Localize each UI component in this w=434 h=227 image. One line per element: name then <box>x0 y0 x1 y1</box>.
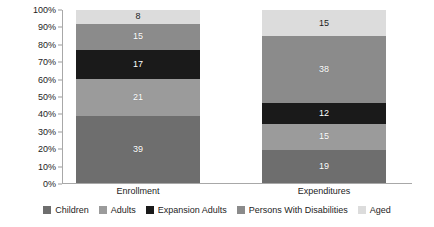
legend: ChildrenAdultsExpansion AdultsPersons Wi… <box>0 202 434 218</box>
legend-swatch-icon <box>358 206 366 214</box>
x-axis-line <box>62 183 412 184</box>
bar-enrollment: 392117158 <box>76 10 200 183</box>
bar-segment-value: 21 <box>133 93 143 102</box>
bar-segment-value: 8 <box>135 12 140 21</box>
bar-segment-persons-with-disabilities: 38 <box>262 36 386 102</box>
y-axis-tick-label: 40% <box>38 109 56 119</box>
y-axis-tick-label: 0% <box>43 179 56 189</box>
bar-segment-expansion-adults: 12 <box>262 103 386 124</box>
bar-segment-value: 19 <box>319 162 329 171</box>
y-axis-tick-label: 50% <box>38 92 56 102</box>
legend-swatch-icon <box>99 206 107 214</box>
bar-segment-expansion-adults: 17 <box>76 50 200 79</box>
category-label-enrollment: Enrollment <box>76 186 200 196</box>
y-axis-tick-label: 60% <box>38 75 56 85</box>
bar-segment-value: 15 <box>319 132 329 141</box>
y-axis: 0%10%20%30%40%50%60%70%80%90%100% <box>14 10 62 184</box>
y-axis-tick-label: 70% <box>38 57 56 67</box>
bar-segment-value: 39 <box>133 145 143 154</box>
bar-segment-children: 19 <box>262 150 386 183</box>
y-axis-tick-label: 100% <box>33 5 56 15</box>
legend-label: Aged <box>370 206 391 215</box>
bar-segment-value: 15 <box>133 32 143 41</box>
bar-segment-aged: 15 <box>262 10 386 36</box>
bar-segment-value: 38 <box>319 65 329 74</box>
legend-item-aged[interactable]: Aged <box>358 206 391 215</box>
legend-swatch-icon <box>146 206 154 214</box>
bar-segment-adults: 15 <box>262 124 386 150</box>
y-axis-tick-label: 80% <box>38 40 56 50</box>
legend-swatch-icon <box>43 206 51 214</box>
bar-segment-adults: 21 <box>76 79 200 115</box>
y-axis-tick-label: 90% <box>38 22 56 32</box>
legend-swatch-icon <box>237 206 245 214</box>
legend-label: Children <box>55 206 89 215</box>
bar-segment-persons-with-disabilities: 15 <box>76 24 200 50</box>
legend-item-persons-with-disabilities[interactable]: Persons With Disabilities <box>237 206 348 215</box>
legend-item-children[interactable]: Children <box>43 206 89 215</box>
legend-label: Expansion Adults <box>158 206 227 215</box>
bar-segment-value: 17 <box>133 60 143 69</box>
y-axis-tick-label: 30% <box>38 127 56 137</box>
category-label-expenditures: Expenditures <box>262 186 386 196</box>
bar-segment-value: 15 <box>319 19 329 28</box>
legend-label: Persons With Disabilities <box>249 206 348 215</box>
legend-label: Adults <box>111 206 136 215</box>
stacked-bar-chart: 0%10%20%30%40%50%60%70%80%90%100% 392117… <box>0 0 434 227</box>
y-axis-tick-label: 10% <box>38 162 56 172</box>
bar-segment-aged: 8 <box>76 10 200 24</box>
bar-segment-value: 12 <box>319 109 329 118</box>
y-axis-tick-label: 20% <box>38 144 56 154</box>
legend-item-expansion-adults[interactable]: Expansion Adults <box>146 206 227 215</box>
bar-segment-children: 39 <box>76 116 200 183</box>
bar-expenditures: 1915123815 <box>262 10 386 183</box>
plot-area: 3921171581915123815 <box>63 10 412 183</box>
legend-item-adults[interactable]: Adults <box>99 206 136 215</box>
